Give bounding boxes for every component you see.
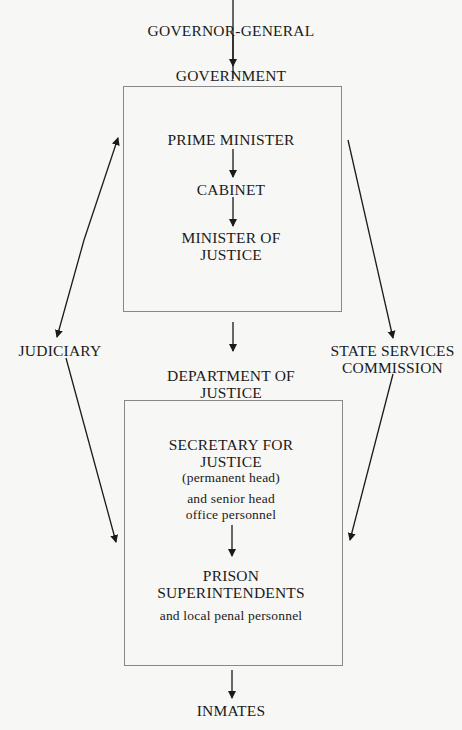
minister-line2: JUSTICE [0,246,462,263]
node-secretary-for-justice: SECRETARY FOR JUSTICE (permanent head) [0,436,462,486]
senior-line1: and senior head [0,491,462,507]
secretary-note: (permanent head) [0,470,462,486]
minister-line1: MINISTER OF [0,229,462,246]
node-minister-of-justice: MINISTER OF JUSTICE [0,229,462,263]
node-cabinet: CABINET [0,181,462,198]
node-judiciary: JUDICIARY [10,342,110,359]
ssc-line1: STATE SERVICES [325,342,460,359]
dept-line2: JUSTICE [0,384,462,401]
node-local-personnel: and local penal personnel [0,608,462,624]
secretary-line1: SECRETARY FOR [0,436,462,453]
node-prison-superintendents: PRISON SUPERINTENDENTS [0,567,462,601]
senior-line2: office personnel [0,507,462,523]
secretary-line2: JUSTICE [0,453,462,470]
prison-line2: SUPERINTENDENTS [0,584,462,601]
node-department-of-justice: DEPARTMENT OF JUSTICE [0,367,462,401]
node-prime-minister: PRIME MINISTER [0,131,462,148]
node-governor-general: GOVERNOR-GENERAL [0,22,462,39]
dept-line1: DEPARTMENT OF [0,367,462,384]
node-senior-personnel: and senior head office personnel [0,491,462,523]
government-box [123,86,342,312]
prison-line1: PRISON [0,567,462,584]
node-government: GOVERNMENT [0,67,462,84]
node-inmates: INMATES [0,702,462,719]
